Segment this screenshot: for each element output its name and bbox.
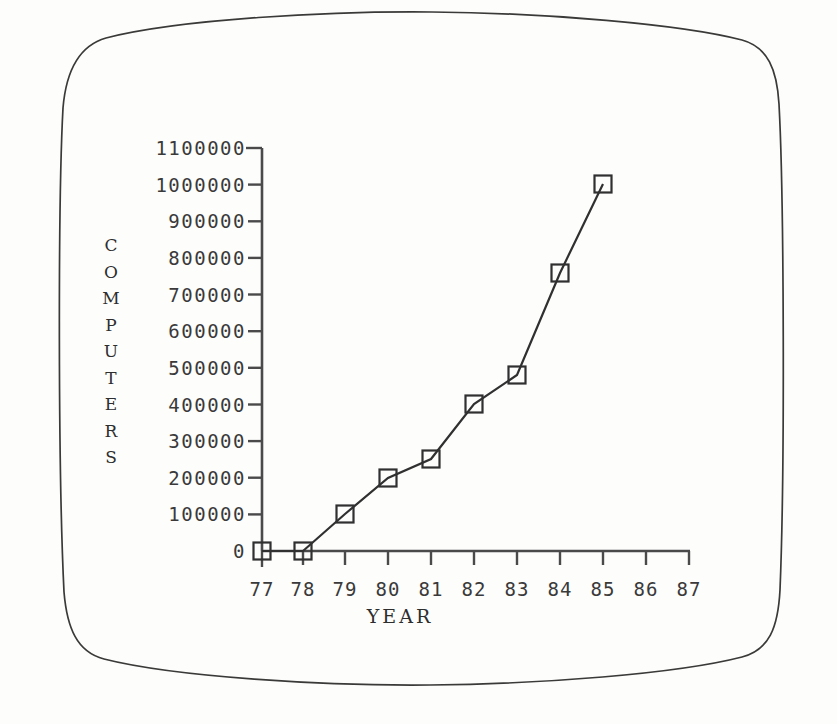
x-tick-label: 85 bbox=[591, 578, 616, 600]
y-axis-title-letter: R bbox=[105, 418, 118, 445]
x-tick-label: 78 bbox=[291, 578, 316, 600]
y-tick-label: 600000 bbox=[168, 320, 246, 342]
x-tick-label: 81 bbox=[419, 578, 444, 600]
y-axis-title-letter: T bbox=[105, 365, 116, 392]
y-tick-label: 0 bbox=[233, 540, 246, 562]
y-tick-label: 800000 bbox=[168, 247, 246, 269]
y-tick-label: 100000 bbox=[168, 503, 246, 525]
y-axis-title-letter: M bbox=[102, 285, 119, 312]
x-tick-label: 77 bbox=[250, 578, 275, 600]
data-series-line bbox=[262, 184, 603, 551]
y-axis-title-letter: O bbox=[104, 259, 118, 286]
y-tick-label: 400000 bbox=[168, 394, 246, 416]
y-tick-label: 300000 bbox=[168, 430, 246, 452]
x-axis-title: YEAR bbox=[367, 605, 433, 627]
x-tick-label: 86 bbox=[634, 578, 659, 600]
y-axis-title-letter: E bbox=[105, 391, 117, 418]
x-tick-label: 80 bbox=[376, 578, 401, 600]
y-tick-label: 1100000 bbox=[155, 137, 246, 159]
y-axis-title-letter: S bbox=[105, 444, 117, 471]
x-tick-label: 82 bbox=[462, 578, 487, 600]
x-tick-label: 87 bbox=[677, 578, 702, 600]
y-tick-label: 700000 bbox=[168, 284, 246, 306]
x-axis-ticks bbox=[262, 551, 689, 567]
x-tick-label: 79 bbox=[333, 578, 358, 600]
y-axis-ticks bbox=[246, 148, 262, 514]
y-tick-label: 1000000 bbox=[155, 174, 246, 196]
x-tick-label: 84 bbox=[548, 578, 573, 600]
x-tick-label: 83 bbox=[505, 578, 530, 600]
y-axis-title: C O M P U T E R S bbox=[98, 232, 124, 471]
y-axis-title-letter: U bbox=[104, 338, 118, 365]
y-tick-label: 500000 bbox=[168, 357, 246, 379]
y-tick-label: 200000 bbox=[168, 467, 246, 489]
y-tick-label: 900000 bbox=[168, 210, 246, 232]
crt-screenshot: 1100000 1000000 900000 800000 700000 600… bbox=[0, 0, 837, 724]
y-axis-title-letter: P bbox=[105, 312, 116, 339]
data-point-markers bbox=[254, 176, 612, 560]
y-axis-title-letter: C bbox=[104, 232, 117, 259]
